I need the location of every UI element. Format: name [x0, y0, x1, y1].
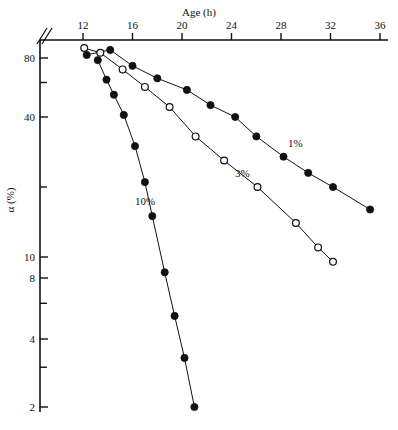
curves-layer — [84, 48, 370, 407]
y-tick-label: 2 — [30, 401, 36, 413]
data-point — [171, 312, 178, 319]
data-point — [83, 51, 90, 58]
data-point — [315, 244, 322, 251]
data-point — [81, 45, 88, 52]
labels-layer: 1%3%10% — [135, 137, 303, 207]
data-point — [280, 153, 287, 160]
data-point — [149, 213, 156, 220]
y-tick-label: 4 — [30, 333, 36, 345]
data-point — [141, 179, 148, 186]
data-point — [131, 143, 138, 150]
x-tick-label: 36 — [375, 19, 387, 31]
data-point — [119, 66, 126, 73]
x-tick-label: 24 — [226, 19, 238, 31]
data-point — [142, 84, 149, 91]
data-point — [97, 49, 104, 56]
axis-break-icon — [42, 28, 52, 44]
series-label-3pct: 3% — [235, 167, 250, 179]
data-point — [330, 258, 337, 265]
data-point — [207, 102, 214, 109]
data-point — [329, 183, 336, 190]
data-point — [110, 91, 117, 98]
series-label-10pct: 10% — [135, 195, 155, 207]
data-point — [305, 169, 312, 176]
axes-layer: 12162024283236804010842 — [24, 19, 388, 413]
y-tick-label: 80 — [24, 52, 36, 64]
data-point — [253, 133, 260, 140]
data-point — [181, 354, 188, 361]
data-point — [191, 403, 198, 410]
y-tick-label: 10 — [24, 251, 36, 263]
y-axis-title: α (%) — [4, 187, 17, 212]
data-point — [192, 133, 199, 140]
data-point — [166, 104, 173, 111]
data-point — [94, 57, 101, 64]
series-line-10pct — [98, 60, 195, 407]
data-point — [293, 220, 300, 227]
x-tick-label: 12 — [78, 19, 89, 31]
y-tick-label: 8 — [30, 272, 36, 284]
series-line-3pct — [84, 48, 333, 262]
data-point — [367, 206, 374, 213]
axis-break-icon — [37, 28, 47, 44]
series-label-1pct: 1% — [288, 137, 303, 149]
x-tick-label: 20 — [177, 19, 189, 31]
data-point — [221, 157, 228, 164]
alpha-vs-age-chart: 12162024283236804010842 1%3%10% Age (h) … — [0, 0, 398, 430]
data-point — [183, 86, 190, 93]
y-tick-label: 40 — [24, 111, 36, 123]
x-axis-title: Age (h) — [182, 6, 216, 19]
data-point — [254, 184, 261, 191]
points-layer — [81, 45, 374, 411]
data-point — [103, 76, 110, 83]
x-tick-label: 32 — [325, 19, 336, 31]
data-point — [107, 46, 114, 53]
data-point — [120, 111, 127, 118]
data-point — [161, 269, 168, 276]
data-point — [129, 62, 136, 69]
data-point — [232, 113, 239, 120]
x-tick-label: 28 — [276, 19, 288, 31]
data-point — [154, 75, 161, 82]
plot-area: 12162024283236804010842 1%3%10% Age (h) … — [0, 0, 398, 430]
x-tick-label: 16 — [127, 19, 139, 31]
